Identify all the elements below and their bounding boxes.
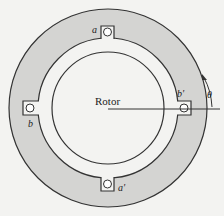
angle-label: θ — [207, 89, 212, 100]
slot-b-prime — [177, 101, 191, 115]
slot-label-b-prime: b' — [177, 88, 185, 99]
slot-label-b: b — [28, 118, 33, 129]
stator-rotor-diagram: a b b' a' θ Rotor — [0, 0, 224, 216]
slot-label-a-prime: a' — [118, 182, 126, 193]
slot-a — [101, 26, 114, 39]
slot-a-prime — [101, 177, 114, 191]
rotor-label: Rotor — [95, 95, 120, 107]
rotor — [52, 52, 164, 164]
slot-b — [23, 101, 39, 115]
slot-label-a: a — [92, 24, 97, 35]
